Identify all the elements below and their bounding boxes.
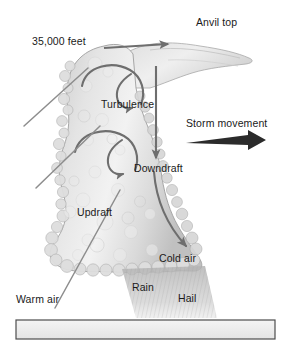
thunderstorm-figure: 35,000 feet Anvil top Turbulence Storm m… (0, 0, 293, 353)
label-anvil-top: Anvil top (196, 16, 237, 28)
label-updraft: Updraft (77, 206, 112, 218)
storm-movement-arrow (186, 130, 266, 150)
anvil-top-spread (128, 43, 252, 88)
label-downdraft: Downdraft (134, 162, 183, 174)
label-turbulence: Turbulence (101, 98, 154, 110)
label-altitude: 35,000 feet (32, 35, 86, 47)
label-cold-air: Cold air (159, 252, 196, 264)
label-storm-movement: Storm movement (186, 117, 267, 129)
label-warm-air: Warm air (16, 293, 59, 305)
label-hail: Hail (178, 292, 197, 304)
ground-surface-bar (16, 320, 275, 339)
label-rain: Rain (132, 281, 154, 293)
